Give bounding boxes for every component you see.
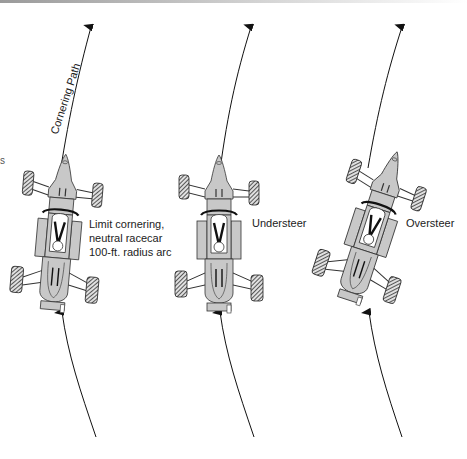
path-arrow-oversteer-bottom bbox=[369, 312, 402, 437]
path-arrow-neutral-bottom bbox=[62, 312, 96, 437]
car-understeer bbox=[175, 155, 263, 313]
path-arrow-understeer-bottom bbox=[220, 312, 254, 437]
path-arrow-understeer-top bbox=[218, 27, 251, 186]
neutral-label: Limit cornering, neutral racecar 100-ft.… bbox=[89, 217, 172, 259]
neutral-label-line-1: Limit cornering, bbox=[89, 217, 172, 231]
neutral-label-line-3: 100-ft. radius arc bbox=[89, 245, 172, 259]
path-arrow-oversteer-top bbox=[368, 27, 402, 168]
neutral-label-line-2: neutral racecar bbox=[89, 231, 172, 245]
oversteer-label: Oversteer bbox=[406, 216, 454, 230]
understeer-label: Understeer bbox=[252, 216, 306, 230]
